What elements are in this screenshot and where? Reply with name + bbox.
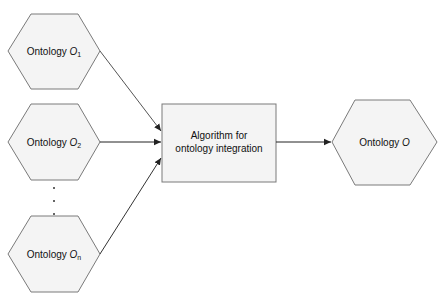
ontology-on-label: Ontology On: [8, 248, 100, 264]
algorithm-label-line1: Algorithm for: [162, 129, 276, 142]
arrow-on-to-algorithm: [100, 158, 161, 254]
ellipsis-dots: [53, 187, 55, 215]
algorithm-label-line2: ontology integration: [162, 142, 276, 155]
label-subscript: n: [77, 254, 81, 261]
label-subscript: 2: [77, 142, 81, 149]
label-subscript: 1: [77, 51, 81, 58]
ontology-o2-label: Ontology O2: [8, 136, 100, 152]
ontology-o-output-label: Ontology O: [332, 136, 437, 149]
label-text: Ontology: [359, 137, 399, 148]
algorithm-label: Algorithm for ontology integration: [162, 129, 276, 155]
arrow-o1-to-algorithm: [100, 51, 161, 131]
label-text: Ontology: [27, 249, 67, 260]
label-text: Ontology: [27, 46, 67, 57]
label-symbol: O: [402, 137, 410, 148]
label-text: Ontology: [27, 137, 67, 148]
ontology-o1-label: Ontology O1: [8, 45, 100, 61]
